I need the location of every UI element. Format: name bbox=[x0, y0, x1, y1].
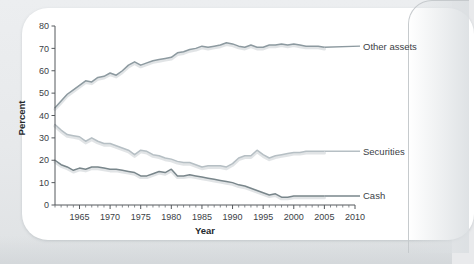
axes-group: 0102030405060708019651970197519801985199… bbox=[39, 21, 365, 222]
y-tick-label: 30 bbox=[39, 133, 49, 143]
y-tick-label: 0 bbox=[44, 200, 49, 210]
y-tick-label: 70 bbox=[39, 44, 49, 54]
y-axis-title: Percent bbox=[16, 100, 27, 136]
series-label: Other assets bbox=[363, 41, 417, 52]
y-tick-label: 50 bbox=[39, 88, 49, 98]
y-tick-label: 10 bbox=[39, 178, 49, 188]
x-tick-label: 2000 bbox=[284, 212, 304, 222]
x-tick-label: 2010 bbox=[345, 212, 365, 222]
y-tick-label: 60 bbox=[39, 66, 49, 76]
x-tick-label: 1980 bbox=[161, 212, 181, 222]
y-tick-label: 20 bbox=[39, 155, 49, 165]
y-tick-label: 80 bbox=[39, 21, 49, 31]
y-tick-label: 40 bbox=[39, 111, 49, 121]
x-tick-label: 1965 bbox=[69, 212, 89, 222]
x-tick-label: 1995 bbox=[253, 212, 273, 222]
label-leader-line bbox=[324, 46, 360, 47]
x-tick-label: 1975 bbox=[131, 212, 151, 222]
x-axis-title: Year bbox=[195, 225, 215, 236]
series-label: Cash bbox=[363, 190, 385, 201]
x-tick-label: 1985 bbox=[192, 212, 212, 222]
series-label: Securities bbox=[363, 146, 405, 157]
x-tick-label: 1990 bbox=[223, 212, 243, 222]
series-labels-group: Other assetsSecuritiesCash bbox=[324, 41, 417, 202]
x-tick-label: 1970 bbox=[100, 212, 120, 222]
x-tick-label: 2005 bbox=[314, 212, 334, 222]
series-halo bbox=[55, 124, 324, 167]
